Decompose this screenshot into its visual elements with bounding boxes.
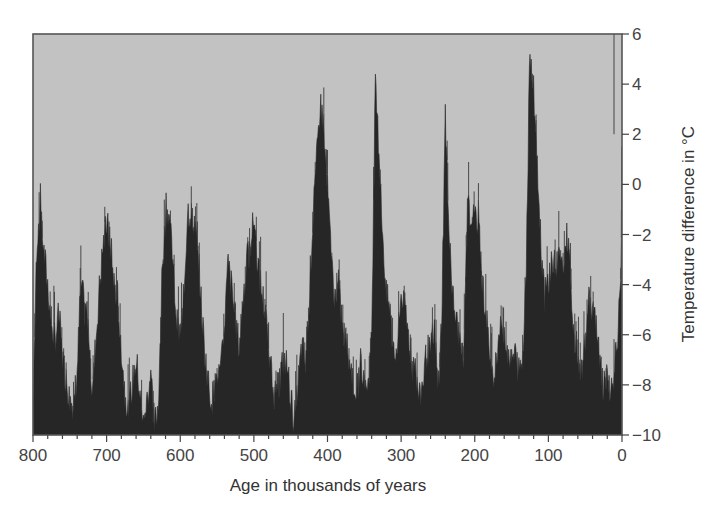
- y-tick-label: −10: [632, 426, 661, 445]
- x-tick-label: 700: [92, 446, 120, 465]
- x-tick-label: 100: [534, 446, 562, 465]
- y-tick-label: 2: [632, 125, 641, 144]
- y-axis-title: Temperature difference in °C: [679, 126, 698, 342]
- y-tick-label: 4: [632, 75, 641, 94]
- temperature-chart: 8007006005004003002001000 6420−2−4−6−8−1…: [0, 0, 721, 511]
- x-tick-label: 600: [166, 446, 194, 465]
- x-tick-label: 800: [19, 446, 47, 465]
- y-tick-label: 6: [632, 25, 641, 44]
- y-tick-label: −4: [632, 276, 651, 295]
- x-axis: 8007006005004003002001000: [19, 435, 627, 465]
- x-tick-label: 0: [617, 446, 626, 465]
- y-tick-label: 0: [632, 175, 641, 194]
- x-tick-label: 500: [240, 446, 268, 465]
- x-axis-title: Age in thousands of years: [230, 476, 427, 495]
- y-axis: 6420−2−4−6−8−10: [622, 25, 661, 445]
- y-tick-label: −6: [632, 326, 651, 345]
- x-tick-label: 300: [387, 446, 415, 465]
- y-tick-label: −8: [632, 376, 651, 395]
- x-tick-label: 200: [461, 446, 489, 465]
- y-tick-label: −2: [632, 226, 651, 245]
- x-tick-label: 400: [313, 446, 341, 465]
